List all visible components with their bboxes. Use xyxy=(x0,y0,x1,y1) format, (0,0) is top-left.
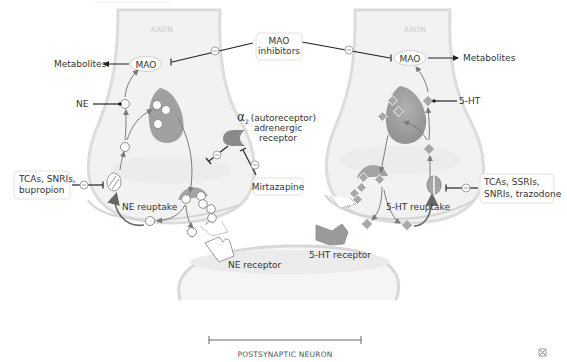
metabolites-label-left: Metabolites xyxy=(54,59,107,69)
5ht-molecule-synapse xyxy=(361,218,372,229)
ne-molecule-reuptake xyxy=(146,217,155,226)
svg-text:SNRIs, trazodone: SNRIs, trazodone xyxy=(484,189,562,199)
minus-sign-mirtazapine xyxy=(251,161,259,169)
alpha2-label-line2: adrenergic xyxy=(254,123,302,133)
svg-text:TCAs, SSRIs,: TCAs, SSRIs, xyxy=(483,177,540,187)
5ht-transporter xyxy=(427,176,441,194)
ne-molecule-free xyxy=(121,143,130,152)
mirtazapine-box: Mirtazapine xyxy=(252,178,305,195)
svg-text:Mirtazapine: Mirtazapine xyxy=(252,182,305,192)
mao-right: MAO xyxy=(394,51,426,66)
ne-molecule-synapse xyxy=(188,228,197,237)
postsynaptic-bracket xyxy=(209,336,361,344)
svg-text:MAO: MAO xyxy=(136,60,157,70)
5ht-receptor xyxy=(316,224,348,245)
tcas-snris-bupropion-box: TCAs, SNRIs, bupropion xyxy=(14,171,76,199)
synapse-diagram: AXON AXON MAO MAO Metabolites Metabolite… xyxy=(0,0,567,362)
svg-text:inhibitors: inhibitors xyxy=(258,46,300,56)
mao-inhibitors-box: MAO inhibitors xyxy=(256,33,302,60)
ne-exocytosis-shape xyxy=(200,222,228,236)
minus-sign-left-drug xyxy=(80,181,88,189)
minus-sign-alpha2 xyxy=(213,151,221,159)
svg-text:bupropion: bupropion xyxy=(19,185,65,195)
5ht-receptor-label: 5-HT receptor xyxy=(309,250,371,260)
ne-receptor-label: NE receptor xyxy=(228,260,282,270)
axon-label-left: AXON xyxy=(151,25,174,34)
postsynaptic-neuron-label: POSTSYNAPTIC NEURON xyxy=(237,350,332,359)
metabolites-label-right: Metabolites xyxy=(463,53,516,63)
ne-molecule-free xyxy=(121,100,130,109)
ne-label: NE xyxy=(76,99,89,109)
mao-left: MAO xyxy=(130,57,162,72)
alpha2-label-line3: receptor xyxy=(259,133,297,143)
minus-sign-right-drug xyxy=(462,184,470,192)
axon-label-right: AXON xyxy=(404,25,427,34)
ne-molecule xyxy=(153,101,162,110)
minus-sign-mao-right xyxy=(345,46,353,54)
tcas-ssris-snris-trazodone-box: TCAs, SSRIs, SNRIs, trazodone xyxy=(480,174,562,203)
expand-icon[interactable] xyxy=(539,349,546,356)
minus-sign-mao-left xyxy=(211,47,219,55)
ne-reuptake-label: NE reuptake xyxy=(122,202,178,212)
svg-text:TCAs, SNRIs,: TCAs, SNRIs, xyxy=(18,174,76,184)
svg-text:MAO: MAO xyxy=(269,36,290,46)
5ht-label: 5-HT xyxy=(459,96,481,106)
ne-molecule xyxy=(154,120,163,129)
ne-transporter xyxy=(107,173,121,191)
ne-molecule xyxy=(162,106,171,115)
5ht-reuptake-label: 5-HT reuptake xyxy=(386,202,450,212)
svg-text:MAO: MAO xyxy=(400,54,421,64)
